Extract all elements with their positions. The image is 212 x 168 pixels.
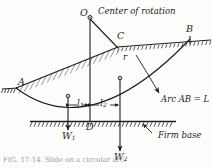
center-dot bbox=[89, 17, 90, 18]
label-point-o: O bbox=[80, 8, 88, 18]
label-firm-base: Firm base bbox=[158, 131, 201, 140]
label-point-a: A bbox=[18, 77, 25, 87]
label-weight-w1: W1 bbox=[62, 131, 76, 141]
label-center-of-rotation: Center of rotation bbox=[98, 7, 176, 16]
figure-container: O Center of rotation A C B D r Arc AB = … bbox=[0, 0, 212, 168]
label-radius-r: r bbox=[123, 53, 127, 62]
arc-label-leader bbox=[136, 55, 159, 93]
force-vector-w2 bbox=[118, 76, 122, 151]
slope-face-hatching bbox=[16, 47, 121, 94]
ground-surface-top bbox=[117, 40, 211, 52]
label-dim-l1: l1 bbox=[77, 99, 84, 108]
label-point-c: C bbox=[117, 31, 124, 41]
label-dim-l2: l2 bbox=[100, 99, 107, 108]
firm-base-line bbox=[30, 122, 176, 127]
figure-caption: FIG. 17-14. Slide on a circular arc. bbox=[3, 156, 209, 167]
label-arc-ab: Arc AB = L bbox=[161, 95, 209, 104]
diagram-canvas bbox=[0, 0, 212, 168]
radius-line-oc bbox=[90, 19, 118, 48]
ground-left-stub bbox=[2, 88, 19, 93]
label-point-d: D bbox=[86, 122, 94, 132]
label-point-b: B bbox=[186, 24, 193, 34]
